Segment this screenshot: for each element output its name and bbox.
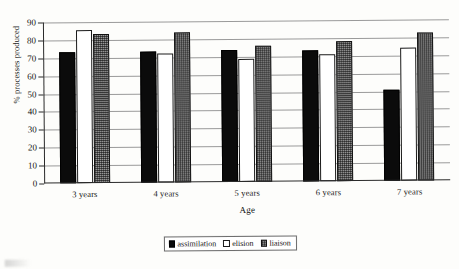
bar-elision: [76, 30, 93, 183]
legend-swatch-icon: [223, 240, 230, 247]
bar-elision: [238, 58, 255, 182]
y-axis-tick-label: 10: [28, 161, 37, 171]
x-axis-tick-labels: 3 years4 years5 years6 years7 years: [44, 186, 450, 199]
bar-liaison: [93, 34, 110, 183]
x-axis-title: Age: [44, 203, 450, 216]
legend-item-label: elision: [232, 239, 253, 248]
bar-group: [43, 22, 125, 184]
legend-item-label: assimilation: [177, 239, 216, 248]
legend-swatch-icon: [260, 240, 267, 247]
scan-smudge: [5, 260, 31, 267]
y-axis-tick-label: 30: [28, 125, 37, 135]
figure-skew-wrapper: % processes produced 0102030405060708090…: [0, 0, 459, 269]
legend-item-elision: elision: [223, 239, 253, 248]
y-axis-tick-label: 60: [27, 71, 36, 81]
legend-swatch-icon: [168, 241, 175, 248]
y-axis-tick-label: 0: [33, 179, 38, 189]
legend-item-label: liaison: [269, 239, 290, 248]
y-axis-tick-label: 80: [27, 35, 36, 45]
bar-group: [368, 19, 450, 181]
bar-group: [287, 20, 369, 182]
chart-legend: assimilationelisionliaison: [163, 235, 296, 251]
y-axis-tick-label: 50: [27, 89, 36, 99]
plot-area: 0102030405060708090: [43, 19, 450, 183]
y-axis-title: % processes produced: [11, 0, 22, 140]
legend-item-liaison: liaison: [260, 239, 290, 248]
y-axis-tick-label: 90: [27, 18, 36, 28]
x-axis-tick-label: 5 years: [207, 188, 288, 199]
x-axis-tick-label: 3 years: [44, 189, 125, 200]
x-axis-tick-label: 7 years: [369, 186, 450, 197]
y-axis-tick-label: 40: [28, 107, 37, 117]
x-axis-tick-label: 6 years: [288, 187, 369, 198]
y-axis-tick: [39, 183, 44, 184]
bar-liaison: [417, 32, 434, 181]
bar-elision: [157, 54, 174, 183]
bar-assimilation: [221, 50, 238, 182]
bar-elision: [401, 47, 418, 180]
bar-assimilation: [302, 51, 319, 182]
bar-assimilation: [59, 53, 76, 184]
bar-assimilation: [384, 89, 401, 180]
x-axis-tick-label: 4 years: [125, 188, 206, 199]
bar-groups: [43, 19, 450, 183]
bar-group: [205, 21, 287, 183]
bar-liaison: [174, 32, 191, 182]
bar-liaison: [336, 41, 353, 182]
bar-elision: [319, 54, 336, 181]
y-axis-tick-label: 20: [28, 143, 37, 153]
legend-item-assimilation: assimilation: [168, 239, 216, 248]
bar-liaison: [255, 46, 272, 182]
bar-assimilation: [140, 52, 157, 183]
y-axis-tick-label: 70: [27, 53, 36, 63]
bar-group: [124, 21, 206, 183]
